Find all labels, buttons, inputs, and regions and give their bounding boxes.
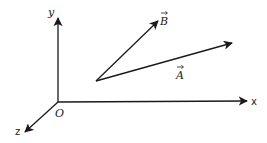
y-axis-label: y	[47, 6, 55, 19]
vector-a-label-group: A	[175, 66, 184, 83]
z-axis	[25, 102, 58, 132]
origin-label: O	[55, 107, 64, 120]
diagram-svg: y x z O B A	[0, 0, 267, 143]
vector-diagram: y x z O B A	[0, 0, 267, 143]
x-axis	[58, 101, 247, 102]
vector-a-label: A	[175, 69, 184, 82]
z-axis-label: z	[15, 126, 20, 137]
vector-b-label: B	[159, 15, 168, 28]
vector-b-label-group: B	[159, 12, 168, 29]
x-axis-label: x	[251, 96, 257, 107]
